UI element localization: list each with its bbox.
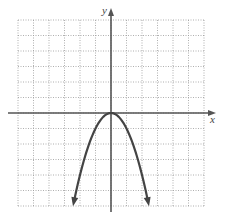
parabola-graph: x y bbox=[0, 0, 228, 216]
curve-arrow-icon bbox=[144, 197, 151, 207]
axes: x y bbox=[8, 4, 216, 212]
curve-arrow-icon bbox=[71, 197, 78, 207]
x-axis-label: x bbox=[209, 113, 215, 125]
y-axis-arrow-icon bbox=[108, 8, 114, 16]
y-axis-label: y bbox=[101, 4, 107, 16]
